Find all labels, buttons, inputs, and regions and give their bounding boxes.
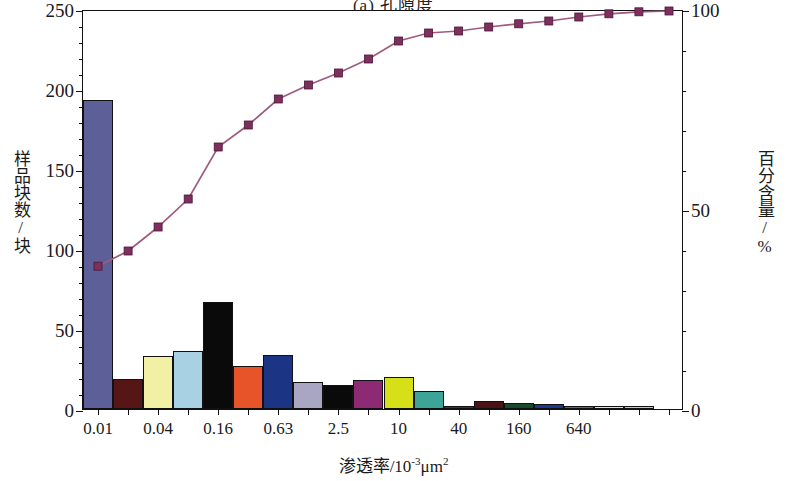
x-axis-tick [218, 409, 219, 415]
x-axis-tick [248, 409, 249, 415]
x-axis-title-text: 渗透率/10 [339, 457, 412, 476]
x-axis-tick [188, 409, 189, 415]
x-axis-tick-label: 160 [506, 419, 532, 439]
y-axis-left-minor-tick [79, 43, 83, 44]
y-axis-left-minor-tick [79, 219, 83, 220]
x-axis-tick-label: 0.63 [263, 419, 293, 439]
y-axis-left-minor-tick [79, 187, 83, 188]
y-axis-left-major-tick [76, 11, 83, 12]
x-axis-tick-label: 40 [450, 419, 467, 439]
y-axis-left-minor-tick [79, 123, 83, 124]
y-axis-right-major-tick [682, 11, 689, 12]
x-axis-title: 渗透率/10-3μm2 [0, 452, 787, 477]
x-axis-tick [669, 409, 670, 415]
cumulative-line-layer [83, 11, 682, 409]
y-axis-left-major-tick [76, 251, 83, 252]
cumulative-line-marker [575, 13, 583, 21]
y-axis-right-tick-label: 50 [691, 200, 710, 222]
x-axis-tick [639, 409, 640, 415]
y-axis-right-major-tick [682, 411, 689, 412]
y-axis-left-minor-tick [79, 347, 83, 348]
x-axis-tick [549, 409, 550, 415]
cumulative-line-marker [214, 143, 222, 151]
y-axis-left-title: 样品块数/块 [8, 150, 33, 254]
y-axis-right-minor-tick [682, 131, 686, 132]
x-axis-tick [429, 409, 430, 415]
x-axis-tick [278, 409, 279, 415]
cumulative-line-marker [545, 17, 553, 25]
x-axis-tick [399, 409, 400, 415]
x-axis-tick [459, 409, 460, 415]
x-axis-tick-label: 2.5 [328, 419, 349, 439]
cumulative-line-marker [334, 69, 342, 77]
cumulative-line-marker [365, 55, 373, 63]
y-axis-right-minor-tick [682, 91, 686, 92]
cumulative-line-marker [665, 7, 673, 15]
cumulative-percentage-line [83, 11, 684, 411]
y-axis-left-minor-tick [79, 155, 83, 156]
x-axis-tick-label: 0.04 [143, 419, 173, 439]
cumulative-line-marker [635, 8, 643, 16]
x-axis-tick-label: 0.16 [203, 419, 233, 439]
y-axis-left-tick-label: 200 [46, 80, 75, 102]
y-axis-right-major-tick [682, 211, 689, 212]
y-axis-left-minor-tick [79, 59, 83, 60]
x-axis-tick-label: 0.01 [83, 419, 113, 439]
x-axis-tick [519, 409, 520, 415]
y-axis-right-minor-tick [682, 51, 686, 52]
cumulative-line-marker [124, 247, 132, 255]
y-axis-left-minor-tick [79, 315, 83, 316]
x-axis-tick [338, 409, 339, 415]
y-axis-right-tick-label: 0 [691, 400, 701, 422]
cumulative-line-marker [455, 27, 463, 35]
y-axis-left-minor-tick [79, 235, 83, 236]
y-axis-right-minor-tick [682, 291, 686, 292]
y-axis-left-minor-tick [79, 139, 83, 140]
x-axis-tick [368, 409, 369, 415]
x-axis-tick-label: 640 [566, 419, 592, 439]
x-axis-tick [98, 409, 99, 415]
y-axis-left-tick-label: 50 [55, 320, 74, 342]
cumulative-line-marker [154, 223, 162, 231]
cumulative-line-path [98, 11, 669, 266]
y-axis-left-tick-label: 100 [46, 240, 75, 262]
cumulative-line-marker [425, 29, 433, 37]
y-axis-left-minor-tick [79, 27, 83, 28]
y-axis-right-minor-tick [682, 171, 686, 172]
y-axis-left-major-tick [76, 411, 83, 412]
chart-canvas: (a) 孔隙度 样品块数/块 百分含量/% 渗透率/10-3μm2 050100… [0, 0, 787, 481]
cumulative-line-marker [274, 95, 282, 103]
x-axis-tick [609, 409, 610, 415]
y-axis-left-minor-tick [79, 363, 83, 364]
cumulative-line-marker [244, 121, 252, 129]
x-axis-tick [489, 409, 490, 415]
y-axis-left-minor-tick [79, 75, 83, 76]
y-axis-right-minor-tick [682, 251, 686, 252]
x-axis-title-unit: μm [421, 457, 443, 476]
cumulative-line-marker [515, 20, 523, 28]
y-axis-left-minor-tick [79, 395, 83, 396]
y-axis-left-minor-tick [79, 107, 83, 108]
y-axis-right-title: 百分含量/% [752, 150, 777, 256]
y-axis-right-tick-label: 100 [691, 0, 720, 22]
x-axis-tick [579, 409, 580, 415]
y-axis-left-major-tick [76, 171, 83, 172]
cumulative-line-marker [485, 23, 493, 31]
plot-area: 0501001502002500501000.010.040.160.632.5… [82, 10, 683, 410]
y-axis-left-tick-label: 0 [65, 400, 75, 422]
cumulative-line-marker [94, 262, 102, 270]
y-axis-right-minor-tick [682, 331, 686, 332]
y-axis-right-minor-tick [682, 371, 686, 372]
cumulative-line-marker [184, 195, 192, 203]
y-axis-left-minor-tick [79, 267, 83, 268]
y-axis-left-major-tick [76, 331, 83, 332]
y-axis-left-minor-tick [79, 379, 83, 380]
y-axis-left-tick-label: 150 [46, 160, 75, 182]
y-axis-left-minor-tick [79, 299, 83, 300]
y-axis-left-tick-label: 250 [46, 0, 75, 22]
x-axis-tick [308, 409, 309, 415]
x-axis-title-unit-exponent: 2 [443, 455, 449, 467]
x-axis-title-exponent: -3 [411, 455, 420, 467]
y-axis-left-major-tick [76, 91, 83, 92]
y-axis-left-minor-tick [79, 283, 83, 284]
